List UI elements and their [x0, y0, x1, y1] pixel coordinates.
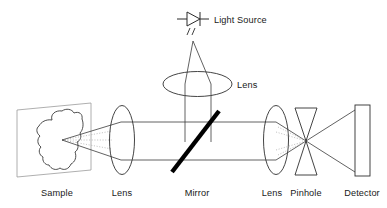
label-mirror: Mirror — [185, 188, 210, 198]
label-lens-right: Lens — [262, 188, 283, 198]
confocal-microscope-diagram: Light Source Lens Sample Lens Mirror Len… — [0, 0, 387, 208]
label-light-source: Light Source — [214, 15, 267, 25]
label-pinhole: Pinhole — [290, 188, 321, 198]
lens-right — [264, 106, 289, 175]
label-sample: Sample — [41, 188, 73, 198]
lens-top — [163, 72, 232, 97]
label-detector: Detector — [344, 188, 380, 198]
label-lens-left: Lens — [112, 188, 133, 198]
optical-diagram-canvas: Light Source Lens Sample Lens Mirror Len… — [0, 0, 387, 208]
lens-left — [110, 106, 135, 175]
pinhole-aperture — [295, 108, 317, 175]
sample-blob — [37, 109, 83, 169]
label-lens-top: Lens — [237, 80, 258, 90]
mirror-bar — [172, 111, 219, 172]
detector-element — [355, 105, 370, 176]
objective-beam-left — [62, 122, 121, 160]
sample-focus-dotted-beam — [62, 131, 112, 149]
light-source-icon — [177, 12, 209, 35]
